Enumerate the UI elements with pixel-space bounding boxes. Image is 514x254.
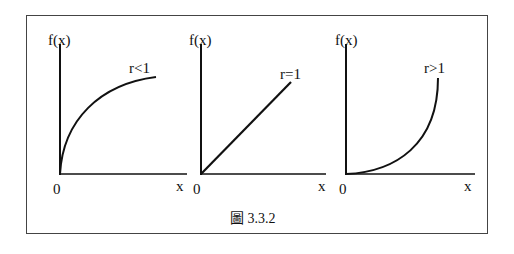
panel-r-less-than-1 <box>60 44 187 175</box>
figure-frame <box>27 16 488 234</box>
x-axis-label: x <box>318 179 326 194</box>
x-axis-label: x <box>176 179 184 194</box>
y-axis-label: f(x) <box>48 33 71 48</box>
origin-label: 0 <box>193 182 201 197</box>
figure-caption: 圖 3.3.2 <box>230 212 276 226</box>
y-axis-label: f(x) <box>189 33 212 48</box>
panel-r-greater-than-1 <box>346 44 475 175</box>
panel-r-equals-1 <box>201 44 326 175</box>
x-axis-label: x <box>464 179 472 194</box>
curve-label: r=1 <box>280 67 301 82</box>
origin-label: 0 <box>53 182 61 197</box>
y-axis-label: f(x) <box>335 33 358 48</box>
curve-label: r>1 <box>424 61 445 76</box>
curve-linear <box>201 82 291 174</box>
curve-label: r<1 <box>129 61 150 76</box>
curve-concave <box>60 77 156 174</box>
origin-label: 0 <box>339 182 347 197</box>
curve-convex <box>346 78 438 174</box>
